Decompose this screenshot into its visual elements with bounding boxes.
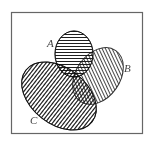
set-c-label: C	[30, 114, 38, 126]
set-b-label: B	[124, 62, 131, 74]
set-a-label: A	[46, 37, 54, 49]
venn-diagram: A B C	[0, 0, 150, 149]
